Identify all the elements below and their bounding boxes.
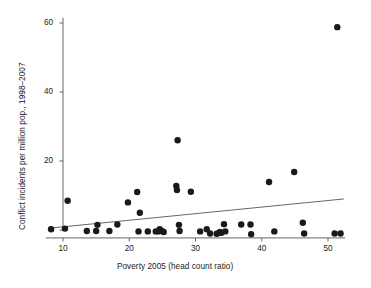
data-point [337,230,343,236]
data-point [207,230,213,236]
data-point [106,228,112,234]
x-tick-label: 50 [316,244,340,253]
data-point [331,230,337,236]
y-tick-label: 20 [29,156,53,165]
data-point [334,24,340,30]
data-point [135,228,141,234]
x-tick-label: 40 [250,244,274,253]
data-point [248,231,254,237]
data-point [301,230,307,236]
data-point [222,228,228,234]
data-point [114,221,120,227]
data-point [300,220,306,226]
data-point [176,222,182,228]
data-point [174,187,180,193]
data-point [197,228,203,234]
x-tick-label: 10 [51,244,75,253]
data-point [271,228,277,234]
x-tick-label: 30 [184,244,208,253]
data-point [247,221,253,227]
data-point [84,228,90,234]
data-point [176,228,182,234]
x-tick-label: 20 [117,244,141,253]
data-point [161,229,167,235]
data-point [174,137,180,143]
data-points [48,24,344,237]
data-point [188,189,194,195]
data-point [62,225,68,231]
data-point [238,221,244,227]
data-point [64,197,70,203]
y-tick-label: 60 [29,18,53,27]
data-point [145,228,151,234]
data-point [291,169,297,175]
data-point [125,199,131,205]
data-point [93,228,99,234]
data-point [134,189,140,195]
data-point [94,222,100,228]
y-tick-label: 40 [29,87,53,96]
scatter-plot-figure: Conflict incidents per million pop., 199… [0,0,371,288]
data-point [137,210,143,216]
data-point [266,179,272,185]
data-point [221,221,227,227]
y-tick-label: 0 [29,225,53,234]
